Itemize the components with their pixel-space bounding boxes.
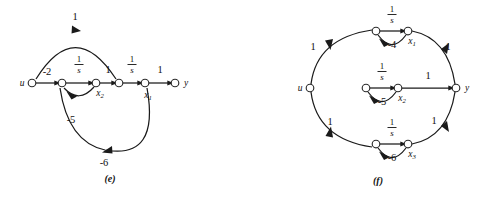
node-e4[interactable] <box>115 79 123 87</box>
gain-label-u-top: 1 <box>310 41 315 52</box>
node-label-y: y <box>464 83 470 93</box>
node-x1[interactable] <box>404 27 412 35</box>
node-x1[interactable] <box>141 79 149 87</box>
node-e2[interactable] <box>58 79 66 87</box>
arrowhead-u-bot <box>326 127 334 138</box>
fraction-numerator: 1 <box>390 117 395 127</box>
gain-label-y-bot: 1 <box>431 115 436 126</box>
gain-label-minus6: -6 <box>388 152 397 163</box>
fraction-denominator: s <box>130 65 134 75</box>
panel-caption-e: (e) <box>104 173 115 185</box>
node-label-u: u <box>20 78 25 88</box>
gain-label-one-mid: 1 <box>105 64 110 75</box>
fraction-numerator: 1 <box>380 61 385 71</box>
node-mid-in[interactable] <box>362 84 370 92</box>
figure-canvas: u y x2 x1 1 -2 1 s 1 1 s 1 -5 -6 (e) <box>0 0 482 200</box>
node-x2[interactable] <box>92 79 100 87</box>
edge-u-to-top <box>311 30 372 84</box>
node-label-y: y <box>183 78 189 88</box>
node-y[interactable] <box>452 84 460 92</box>
fraction-numerator: 1 <box>77 54 82 64</box>
node-x3[interactable] <box>404 140 412 148</box>
panel-caption-f: (f) <box>373 175 383 187</box>
node-label-x3: x3 <box>407 149 416 160</box>
gain-label-one-out: 1 <box>157 64 162 75</box>
node-label-x1: x1 <box>143 90 152 101</box>
gain-label-u-bot: 1 <box>327 116 332 127</box>
panel-f: u y x1 x2 x3 1 s -4 1 1 1 s -5 1 <box>298 4 470 187</box>
gain-label-inv-s-2: 1 s <box>128 54 137 75</box>
fraction-numerator: 1 <box>130 54 135 64</box>
fraction-denominator: s <box>77 65 81 75</box>
gain-label-minus5: -5 <box>67 114 76 125</box>
gain-label-inv-s-top: 1 s <box>388 4 397 25</box>
gain-label-inv-s-bot: 1 s <box>388 117 397 138</box>
gain-label-top-arc: 1 <box>72 11 77 22</box>
gain-label-y-top: 1 <box>445 41 450 52</box>
node-bot-in[interactable] <box>372 140 380 148</box>
node-y[interactable] <box>171 79 179 87</box>
gain-label-minus5: -5 <box>378 96 387 107</box>
node-x2[interactable] <box>394 84 402 92</box>
node-u[interactable] <box>28 79 36 87</box>
node-top-in[interactable] <box>372 27 380 35</box>
edge-x1-to-y <box>412 31 455 84</box>
node-label-u: u <box>298 83 303 93</box>
node-u[interactable] <box>306 84 314 92</box>
edge-u-to-bot <box>311 92 372 147</box>
node-label-x1: x1 <box>407 36 416 47</box>
gain-label-mid-to-y: 1 <box>425 70 430 81</box>
fraction-denominator: s <box>390 128 394 138</box>
fraction-denominator: s <box>380 72 384 82</box>
fraction-denominator: s <box>390 15 394 25</box>
gain-label-inv-s-1: 1 s <box>75 54 84 75</box>
fraction-numerator: 1 <box>390 4 395 14</box>
gain-label-minus6: -6 <box>100 157 109 168</box>
gain-label-minus2: -2 <box>43 66 52 77</box>
node-label-x2: x2 <box>397 93 406 104</box>
gain-label-minus4: -4 <box>388 39 397 50</box>
node-label-x2: x2 <box>95 88 104 99</box>
panel-e: u y x2 x1 1 -2 1 s 1 1 s 1 -5 -6 (e) <box>20 11 189 185</box>
gain-label-inv-s-mid: 1 s <box>378 61 387 82</box>
signal-flow-graph-figure: u y x2 x1 1 -2 1 s 1 1 s 1 -5 -6 (e) <box>0 0 482 200</box>
